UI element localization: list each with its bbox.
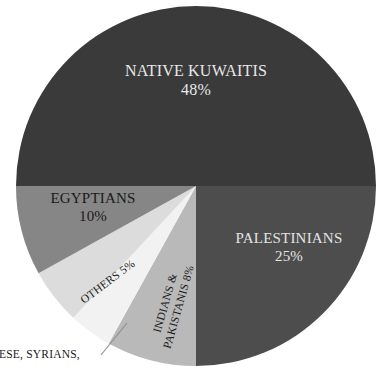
pie-chart-svg	[0, 0, 382, 369]
pie-slice-palestinians[interactable]	[196, 186, 376, 366]
pie-chart-figure: NATIVE KUWAITIS 48% PALESTINIANS 25% EGY…	[0, 0, 382, 369]
callout-label-lebanese-syrians: ANESE, SYRIANS,	[0, 348, 80, 360]
pie-slice-native-kuwaitis[interactable]	[16, 6, 376, 186]
